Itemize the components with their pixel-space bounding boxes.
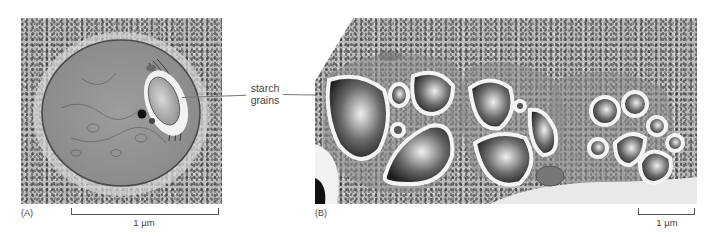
scale-bar-b	[638, 208, 695, 215]
callout-line-1: starch	[240, 82, 290, 94]
plastid-illustration-a	[21, 18, 222, 204]
starch-grains-callout: starch grains	[240, 82, 290, 106]
callout-line-2: grains	[240, 94, 290, 106]
scale-bar-a	[71, 208, 219, 215]
plastid-illustration-b	[315, 18, 697, 204]
scale-bar-a-label: 1 µm	[114, 217, 174, 228]
scale-bar-b-label: 1 µm	[637, 217, 697, 228]
panel-a-label: (A)	[21, 208, 33, 218]
micrograph-panel-b	[315, 18, 697, 204]
panel-b-label: (B)	[315, 208, 327, 218]
micrograph-panel-a	[21, 18, 222, 204]
